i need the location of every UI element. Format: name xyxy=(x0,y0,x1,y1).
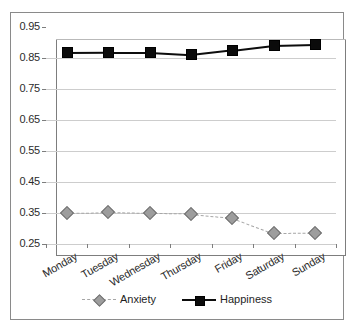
y-tick-label: 0.45 xyxy=(0,176,40,187)
y-tick-mark xyxy=(42,27,46,28)
gridline xyxy=(46,182,336,183)
anxiety-legend-marker-icon xyxy=(82,294,116,305)
y-tick-label: 0.35 xyxy=(0,207,40,218)
chart-frame: 0.950.850.750.650.550.450.350.25 MondayT… xyxy=(10,12,344,320)
y-tick-label: 0.55 xyxy=(0,145,40,156)
y-tick-label: 0.75 xyxy=(0,83,40,94)
plot-top-border xyxy=(56,39,346,40)
x-tick-mark xyxy=(212,244,213,248)
y-tick-label: 0.65 xyxy=(0,114,40,125)
happiness-legend-marker-icon xyxy=(182,294,216,305)
x-tick-mark xyxy=(129,244,130,248)
chart-legend: Anxiety Happiness xyxy=(11,293,343,305)
data-point-marker[interactable] xyxy=(186,49,197,60)
gridline xyxy=(46,89,336,90)
series-line-segment xyxy=(108,52,149,54)
data-point-marker[interactable] xyxy=(310,39,321,50)
legend-label-anxiety: Anxiety xyxy=(120,293,156,305)
gridline xyxy=(46,151,336,152)
gridline xyxy=(46,120,336,121)
y-tick-mark xyxy=(42,120,46,121)
x-tick-mark xyxy=(46,244,47,248)
y-tick-label: 0.85 xyxy=(0,52,40,63)
legend-item-happiness[interactable]: Happiness xyxy=(182,293,272,305)
legend-item-anxiety[interactable]: Anxiety xyxy=(82,293,156,305)
gridline xyxy=(46,244,336,245)
data-point-marker[interactable] xyxy=(62,47,73,58)
y-tick-mark xyxy=(42,182,46,183)
y-tick-mark xyxy=(42,213,46,214)
data-point-marker[interactable] xyxy=(145,47,156,58)
x-tick-mark xyxy=(336,244,337,248)
data-point-marker[interactable] xyxy=(103,47,114,58)
legend-label-happiness: Happiness xyxy=(220,293,272,305)
x-tick-mark xyxy=(87,244,88,248)
y-tick-mark xyxy=(42,151,46,152)
x-tick-mark xyxy=(170,244,171,248)
plot-area xyxy=(56,39,346,256)
y-tick-label: 0.25 xyxy=(0,238,40,249)
y-tick-label: 0.95 xyxy=(0,21,40,32)
series-line-segment xyxy=(274,44,315,47)
x-tick-mark xyxy=(253,244,254,248)
data-point-marker[interactable] xyxy=(227,45,238,56)
x-tick-mark xyxy=(295,244,296,248)
y-tick-mark xyxy=(42,58,46,59)
y-tick-mark xyxy=(42,89,46,90)
data-point-marker[interactable] xyxy=(269,40,280,51)
